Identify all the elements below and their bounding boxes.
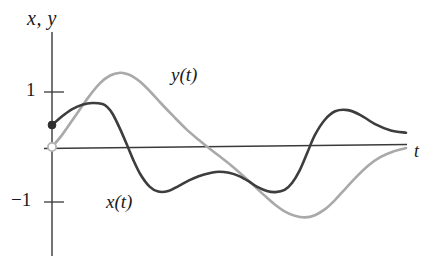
y-curve-start-marker bbox=[48, 143, 56, 151]
y-tick-label-negative-one: −1 bbox=[11, 190, 31, 209]
curve-label-y-of-t: y(t) bbox=[171, 65, 197, 84]
x-axis-line bbox=[44, 145, 407, 149]
horizontal-axis-label: t bbox=[414, 142, 419, 160]
signal-plot-figure: x, y t 1 −1 y(t) x(t) bbox=[0, 0, 435, 264]
curve-label-x-of-t: x(t) bbox=[106, 192, 132, 211]
x-curve-start-marker bbox=[48, 121, 56, 129]
axes-group bbox=[44, 32, 407, 256]
vertical-axis-label: x, y bbox=[27, 8, 57, 28]
plot-canvas bbox=[0, 0, 435, 264]
y-tick-label-positive-one: 1 bbox=[26, 80, 36, 99]
